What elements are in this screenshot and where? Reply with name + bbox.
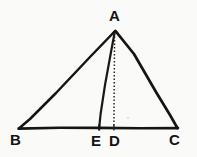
geometry-figure: A B E D C (0, 0, 197, 157)
segment-ad-dotted (114, 33, 115, 127)
segment-ac (116, 31, 178, 128)
vertex-label-b: B (10, 132, 21, 147)
vertex-label-a: A (109, 8, 120, 23)
vertex-label-c: C (169, 132, 180, 147)
vertex-label-d: D (109, 133, 120, 148)
vertex-label-e: E (91, 133, 101, 148)
scan-speck (127, 117, 128, 118)
